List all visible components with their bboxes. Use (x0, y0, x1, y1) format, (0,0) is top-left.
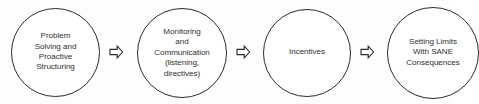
flow-node-label: Monitoring and Communication (listening,… (152, 27, 212, 79)
arrow-right-icon (360, 44, 375, 60)
flow-node-monitoring-communication[interactable]: Monitoring and Communication (listening,… (137, 8, 227, 98)
flow-node-label: Problem Solving and Proactive Structurin… (33, 31, 79, 73)
arrow-right-icon (109, 44, 124, 60)
flow-node-problem-solving[interactable]: Problem Solving and Proactive Structurin… (11, 8, 100, 97)
flow-connector-arrow-3 (360, 0, 375, 104)
flow-node-label: Incentives (287, 47, 327, 57)
flow-node-label: Setting Limits With SANE Consequences (404, 37, 461, 68)
flow-connector-arrow-1 (109, 0, 124, 104)
flow-node-setting-limits[interactable]: Setting Limits With SANE Consequences (387, 7, 479, 99)
arrow-right-icon (236, 44, 251, 60)
flow-node-incentives[interactable]: Incentives (263, 9, 351, 97)
flow-connector-arrow-2 (236, 0, 251, 104)
